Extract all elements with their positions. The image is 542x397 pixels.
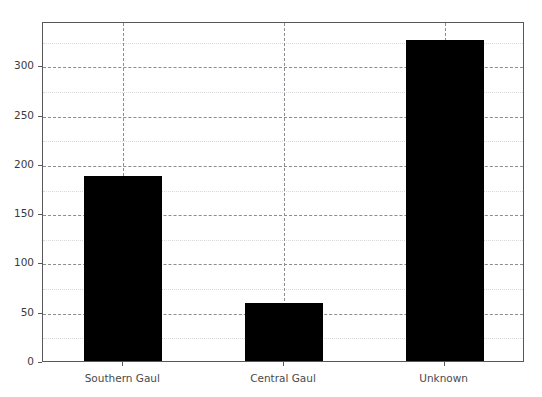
bar-central-gaul	[245, 303, 323, 361]
y-tick-mark-100	[38, 263, 42, 264]
bar-chart-figure: 050100150200250300 Southern GaulCentral …	[0, 0, 542, 397]
y-tick-mark-0	[38, 362, 42, 363]
y-tick-label-0: 0	[0, 355, 34, 367]
y-tick-mark-150	[38, 214, 42, 215]
y-tick-label-250: 250	[0, 109, 34, 121]
y-tick-label-300: 300	[0, 59, 34, 71]
y-tick-label-200: 200	[0, 158, 34, 170]
x-tick-label-southern-gaul: Southern Gaul	[85, 372, 160, 384]
x-tick-mark-0	[122, 362, 123, 366]
plot-area	[42, 22, 524, 362]
y-tick-mark-250	[38, 116, 42, 117]
y-tick-label-150: 150	[0, 207, 34, 219]
x-tick-mark-1	[283, 362, 284, 366]
y-tick-mark-200	[38, 165, 42, 166]
x-tick-label-unknown: Unknown	[419, 372, 468, 384]
bar-unknown	[406, 40, 484, 361]
bar-southern-gaul	[84, 176, 162, 361]
y-tick-label-100: 100	[0, 256, 34, 268]
x-tick-label-central-gaul: Central Gaul	[250, 372, 316, 384]
x-tick-mark-2	[444, 362, 445, 366]
y-tick-mark-300	[38, 66, 42, 67]
y-tick-mark-50	[38, 313, 42, 314]
y-tick-label-50: 50	[0, 306, 34, 318]
